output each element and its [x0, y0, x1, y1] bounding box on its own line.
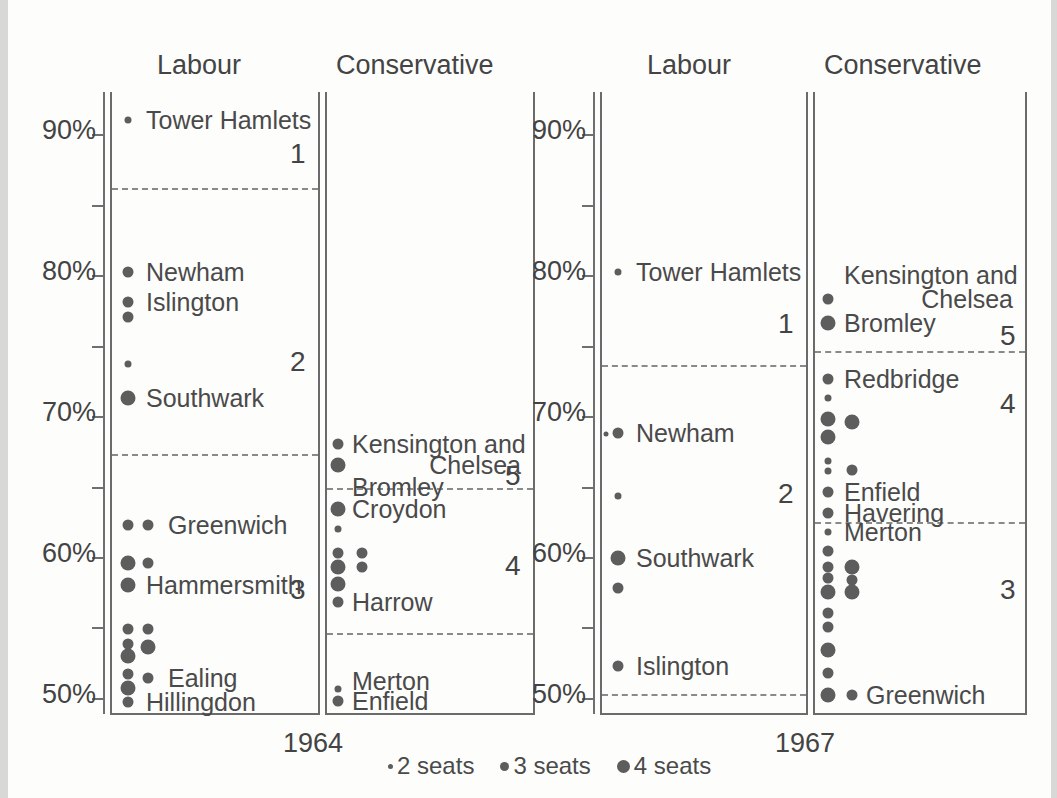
- y-axis-tick-65: [582, 487, 593, 489]
- point-label: Hillingdon: [146, 688, 256, 717]
- data-point: [121, 681, 136, 696]
- cluster-number-labour-1964-2: 2: [290, 346, 306, 378]
- data-point: [123, 312, 134, 323]
- data-point: [125, 117, 132, 124]
- data-point: [823, 608, 834, 619]
- panel-border-bottom-labour-1967: [600, 713, 808, 715]
- legend-dot-icon: [617, 760, 630, 773]
- y-axis-tick-label-70: 70%: [6, 397, 96, 428]
- data-point: [331, 502, 346, 517]
- data-point: [123, 297, 134, 308]
- data-point: [825, 458, 832, 465]
- y-axis-tick-label-50: 50%: [6, 679, 96, 710]
- column-title-conservative-1964: Conservative: [336, 50, 494, 81]
- chart-legend: 2 seats3 seats4 seats: [388, 752, 711, 780]
- cluster-number-conservative-1967-3: 3: [1000, 574, 1016, 606]
- data-point: [333, 548, 344, 559]
- year-label-axis-1967: 1967: [775, 728, 835, 759]
- data-point: [847, 465, 858, 476]
- data-point: [123, 697, 134, 708]
- page-edge-right: [1051, 0, 1057, 798]
- data-point: [331, 560, 346, 575]
- point-label: Greenwich: [866, 681, 986, 710]
- data-point: [845, 415, 860, 430]
- data-point: [611, 551, 626, 566]
- data-point: [123, 520, 134, 531]
- y-axis-tick-label-70: 70%: [496, 397, 586, 428]
- data-point: [333, 597, 344, 608]
- data-point: [823, 622, 834, 633]
- data-point: [615, 493, 622, 500]
- data-point: [357, 562, 368, 573]
- data-point: [823, 508, 834, 519]
- legend-label: 4 seats: [634, 752, 711, 780]
- y-axis-spine-axis-1967: [593, 92, 595, 714]
- point-label: Islington: [146, 288, 239, 317]
- legend-label: 2 seats: [397, 752, 474, 780]
- y-axis-tick-label-90: 90%: [6, 115, 96, 146]
- point-label: Greenwich: [168, 511, 288, 540]
- cluster-number-conservative-1967-4: 4: [1000, 388, 1016, 420]
- data-point: [845, 560, 860, 575]
- data-point: [825, 395, 832, 402]
- cluster-number-labour-1967-2: 2: [778, 478, 794, 510]
- data-point: [823, 374, 834, 385]
- point-label: Tower Hamlets: [146, 106, 311, 135]
- y-axis-tick-75: [92, 346, 103, 348]
- cluster-boundary-conservative-1967-0: [815, 351, 1025, 353]
- data-point: [613, 661, 624, 672]
- data-point: [845, 585, 860, 600]
- panel-border-bottom-conservative-1967: [813, 713, 1027, 715]
- legend-dot-icon: [388, 764, 393, 769]
- data-point: [335, 686, 342, 693]
- y-axis-tick-85: [582, 205, 593, 207]
- panel-border-left-conservative-1967: [813, 92, 815, 714]
- data-point: [125, 361, 132, 368]
- point-label: Bromley: [844, 309, 936, 338]
- legend-item-3: 4 seats: [617, 752, 711, 780]
- column-title-labour-1964: Labour: [157, 50, 241, 81]
- data-point: [823, 573, 834, 584]
- panel-border-right-labour-1967: [806, 92, 808, 714]
- data-point: [825, 468, 832, 475]
- year-label-axis-1964: 1964: [283, 728, 343, 759]
- data-point: [847, 690, 858, 701]
- data-point: [143, 673, 154, 684]
- panel-border-right-labour-1964: [318, 92, 320, 714]
- point-label: Tower Hamlets: [636, 258, 801, 287]
- legend-label: 3 seats: [513, 752, 590, 780]
- y-axis-spine-axis-1964: [103, 92, 105, 714]
- point-label: Harrow: [352, 588, 433, 617]
- point-label: Hammersmith: [146, 571, 302, 600]
- data-point: [613, 583, 624, 594]
- y-axis-tick-label-60: 60%: [496, 538, 586, 569]
- data-point: [604, 432, 609, 437]
- data-point: [333, 696, 344, 707]
- data-point: [615, 269, 622, 276]
- y-axis-tick-55: [92, 627, 103, 629]
- cluster-boundary-labour-1964-1: [112, 454, 318, 456]
- legend-dot-icon: [500, 762, 509, 771]
- data-point: [821, 316, 836, 331]
- data-point: [143, 558, 154, 569]
- legend-item-1: 2 seats: [388, 752, 474, 780]
- panel-border-left-conservative-1964: [325, 92, 327, 714]
- cluster-boundary-conservative-1964-1: [327, 633, 533, 635]
- cluster-number-conservative-1967-5: 5: [1000, 320, 1016, 352]
- data-point: [123, 624, 134, 635]
- data-point: [821, 412, 836, 427]
- cluster-boundary-labour-1967-1: [602, 694, 806, 696]
- y-axis-tick-85: [92, 205, 103, 207]
- y-axis-tick-label-90: 90%: [496, 115, 586, 146]
- data-point: [823, 546, 834, 557]
- data-point: [331, 577, 346, 592]
- data-point: [333, 439, 344, 450]
- point-label: Redbridge: [844, 365, 959, 394]
- data-point: [821, 585, 836, 600]
- y-axis-tick-55: [582, 627, 593, 629]
- data-point: [123, 267, 134, 278]
- point-label: Southwark: [636, 544, 754, 573]
- cluster-boundary-labour-1964-0: [112, 188, 318, 190]
- point-label: Enfield: [352, 687, 428, 716]
- data-point: [823, 487, 834, 498]
